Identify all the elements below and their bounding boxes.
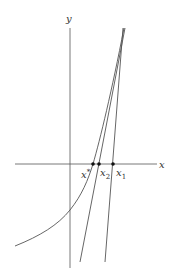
newton-method-diagram: y x x* x2 x1 [0,0,170,273]
point-x1 [111,162,115,166]
point-x-star [91,162,95,166]
point-x2 [97,162,101,166]
tangent-line-1 [105,28,123,262]
y-axis-label: y [65,13,72,24]
function-curve [15,28,124,246]
label-x-star: x* [81,168,91,180]
label-x2: x2 [100,167,110,181]
x-axis-label: x [159,159,165,170]
tangent-line-2 [80,28,125,262]
label-x1: x1 [116,167,126,181]
